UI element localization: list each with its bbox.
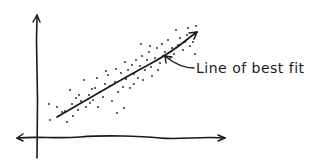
line-of-best-fit-label: Line of best fit xyxy=(196,60,305,77)
best-fit-line xyxy=(57,32,197,117)
x-axis xyxy=(17,136,225,139)
scatter-diagram xyxy=(0,0,330,168)
